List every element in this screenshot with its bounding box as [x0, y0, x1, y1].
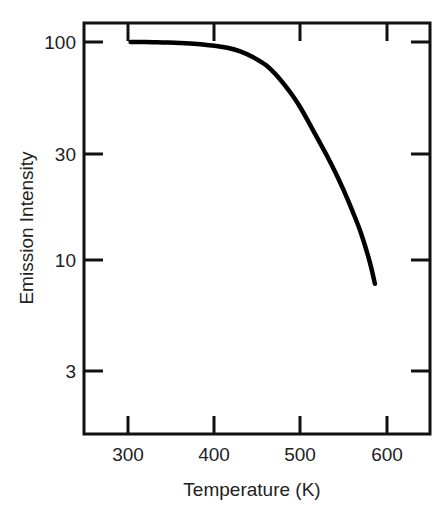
y-tick-label-10: 10 — [55, 250, 76, 271]
x-tick-label-500: 500 — [284, 444, 316, 465]
figure-panel: 300 400 500 600 100 30 10 3 Temperature … — [0, 0, 448, 516]
emission-intensity-chart: 300 400 500 600 100 30 10 3 Temperature … — [0, 0, 448, 516]
x-tick-label-600: 600 — [371, 444, 403, 465]
x-tick-label-400: 400 — [198, 444, 230, 465]
y-tick-label-30: 30 — [55, 144, 76, 165]
x-axis-title: Temperature (K) — [183, 479, 320, 500]
y-tick-label-3: 3 — [65, 361, 76, 382]
x-tick-label-300: 300 — [112, 444, 144, 465]
y-tick-label-100: 100 — [44, 32, 76, 53]
y-tick-labels: 100 30 10 3 — [44, 32, 76, 382]
x-tick-labels: 300 400 500 600 — [112, 444, 403, 465]
plot-frame — [84, 23, 430, 434]
y-axis-title: Emission Intensity — [16, 151, 37, 305]
